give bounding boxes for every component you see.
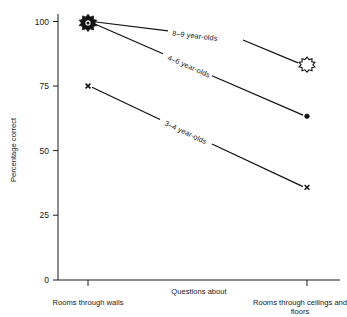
series-8-9-segment-a bbox=[92, 22, 168, 31]
marker-x-right bbox=[305, 185, 310, 190]
marker-x-left bbox=[86, 84, 91, 89]
series-8-9-segment-b bbox=[243, 40, 298, 63]
x-axis-title: Questions about bbox=[171, 287, 227, 296]
y-axis-title: Percentage correct bbox=[9, 117, 18, 182]
series-3-4-segment-b bbox=[212, 144, 303, 187]
line-chart: 100 75 50 25 0 Percentage correct Questi… bbox=[0, 0, 347, 317]
y-tick-label-50: 50 bbox=[40, 146, 50, 156]
y-tick-label-75: 75 bbox=[40, 81, 50, 91]
x-category-label-right-line2: floors bbox=[291, 307, 310, 316]
series-label-8-9: 8–9 year-olds bbox=[172, 29, 219, 44]
x-category-label-left: Rooms through walls bbox=[53, 298, 124, 307]
series-3-4-segment-a bbox=[92, 87, 160, 119]
y-tick-label-100: 100 bbox=[35, 17, 49, 27]
marker-dot-filled-right bbox=[305, 114, 310, 119]
marker-starburst-filled-left bbox=[79, 14, 97, 31]
chart-container: 100 75 50 25 0 Percentage correct Questi… bbox=[0, 0, 347, 317]
y-tick-label-25: 25 bbox=[40, 210, 50, 220]
series-4-6-segment-a bbox=[92, 23, 163, 54]
marker-starburst-open-right bbox=[299, 57, 315, 72]
series-label-3-4: 3–4 year-olds bbox=[163, 119, 208, 146]
series-label-4-6: 4–6 year-olds bbox=[166, 53, 212, 80]
x-category-label-right-line1: Rooms through ceilings and bbox=[253, 298, 347, 307]
y-tick-label-0: 0 bbox=[44, 275, 49, 285]
series-4-6-segment-b bbox=[212, 76, 303, 115]
